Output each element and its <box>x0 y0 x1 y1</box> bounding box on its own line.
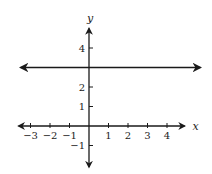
x-tick-label: 4 <box>164 130 170 141</box>
chart: −3−2−11234−1124 x y <box>0 0 212 174</box>
y-tick-label: 4 <box>79 43 85 54</box>
x-tick-label: −3 <box>23 130 38 141</box>
y-tick-label: −1 <box>70 140 85 151</box>
x-tick-label: 1 <box>105 130 111 141</box>
x-tick-label: 2 <box>125 130 131 141</box>
ticks: −3−2−11234−1124 <box>23 43 170 152</box>
y-tick-label: 2 <box>79 82 85 93</box>
y-tick-label: 1 <box>79 101 85 112</box>
axes <box>19 29 185 167</box>
x-tick-label: 3 <box>144 130 150 141</box>
y-axis-label: y <box>86 12 94 25</box>
x-tick-label: −2 <box>43 130 58 141</box>
x-axis-label: x <box>193 120 200 133</box>
